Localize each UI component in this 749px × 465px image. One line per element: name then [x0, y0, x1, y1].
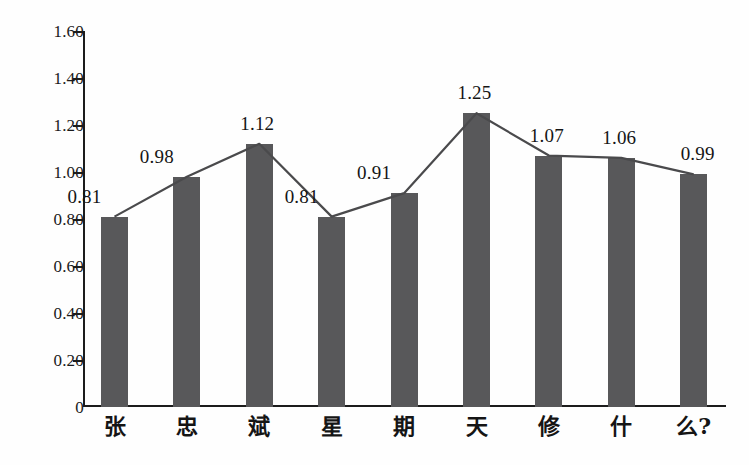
bar-value-label: 1.12: [229, 114, 285, 133]
x-axis-category-label: 斌: [227, 414, 291, 438]
bar: [463, 113, 490, 407]
bar-value-label: 1.07: [519, 126, 575, 145]
bar: [535, 156, 562, 407]
bar-value-label: 0.99: [670, 144, 726, 163]
bar-value-label: 0.98: [129, 147, 185, 166]
y-axis-tick-mark: [73, 31, 84, 33]
x-axis-category-label: 忠: [155, 414, 219, 438]
bar: [391, 193, 418, 407]
bar: [318, 217, 345, 407]
y-axis-tick-mark: [73, 313, 84, 315]
y-axis-tick-label: 0: [22, 399, 84, 416]
x-axis-category-label: 期: [372, 414, 436, 438]
x-axis-category-label: 么?: [662, 414, 726, 438]
bar: [246, 144, 273, 407]
y-axis-tick-mark: [73, 219, 84, 221]
y-axis-tick-mark: [73, 360, 84, 362]
x-axis-category-label: 张: [83, 414, 147, 438]
y-axis-tick-mark: [73, 78, 84, 80]
bar: [608, 158, 635, 407]
bar-value-label: 0.81: [57, 187, 113, 206]
x-axis-category-label: 什: [589, 414, 653, 438]
bar-value-label: 1.06: [591, 128, 647, 147]
x-axis-category-label: 星: [300, 414, 364, 438]
bar: [680, 174, 707, 407]
plot-area: [83, 31, 726, 407]
bar-chart: 00.200.400.600.801.001.201.401.60 0.810.…: [0, 0, 749, 465]
x-axis-category-label: 修: [517, 414, 581, 438]
bar: [173, 177, 200, 407]
bar: [101, 217, 128, 407]
bar-value-label: 0.81: [274, 187, 330, 206]
bar-value-label: 1.25: [447, 83, 503, 102]
y-axis-tick-mark: [73, 125, 84, 127]
bar-value-label: 0.91: [346, 163, 402, 182]
y-axis-tick-mark: [73, 266, 84, 268]
x-axis-category-label: 天: [445, 414, 509, 438]
y-axis-tick-mark: [73, 172, 84, 174]
